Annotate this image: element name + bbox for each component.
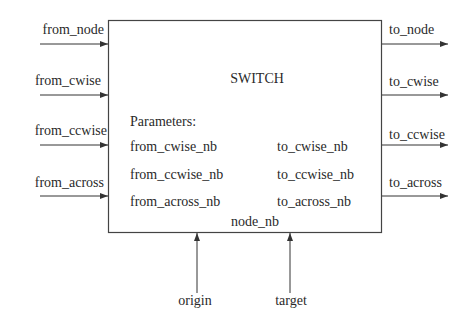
parameter-to-cwise-nb: to_cwise_nb	[277, 139, 348, 155]
parameter-to-ccwise-nb: to_ccwise_nb	[277, 167, 354, 183]
parameter-from-across-nb: from_across_nb	[130, 194, 220, 210]
output-label-to-across: to_across	[389, 175, 442, 191]
input-label-from-ccwise: from_ccwise	[0, 123, 107, 139]
output-label-to-node: to_node	[389, 22, 434, 38]
input-label-from-cwise: from_cwise	[0, 73, 101, 89]
output-label-to-cwise: to_cwise	[389, 74, 439, 90]
block-title: SWITCH	[230, 71, 284, 87]
parameter-to-across-nb: to_across_nb	[277, 194, 351, 210]
bottom-input-label-target: target	[275, 293, 307, 309]
diagram-canvas	[0, 0, 471, 331]
parameter-from-cwise-nb: from_cwise_nb	[130, 139, 217, 155]
input-label-from-node: from_node	[0, 22, 104, 38]
parameters-heading: Parameters:	[130, 114, 196, 130]
bottom-input-label-origin: origin	[178, 293, 211, 309]
input-label-from-across: from_across	[0, 175, 104, 191]
parameter-node-nb: node_nb	[231, 214, 279, 230]
output-label-to-ccwise: to_ccwise	[389, 127, 445, 143]
parameter-from-ccwise-nb: from_ccwise_nb	[130, 167, 223, 183]
